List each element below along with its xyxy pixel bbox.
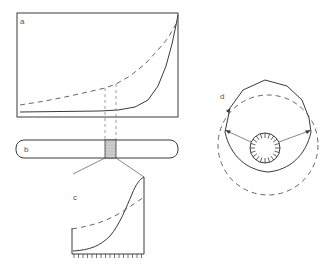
panel-b bbox=[16, 140, 178, 158]
magnify-line-left bbox=[73, 158, 105, 174]
panel-c-label: c bbox=[73, 193, 77, 202]
arrowhead-left-icon bbox=[225, 130, 231, 134]
panel-d bbox=[218, 79, 318, 195]
panel-a-solid-curve bbox=[20, 15, 178, 112]
panel-a bbox=[17, 13, 178, 140]
panel-b-label: b bbox=[24, 145, 29, 154]
panel-d-arrow-right bbox=[279, 131, 309, 142]
panel-c-ticks bbox=[74, 254, 142, 258]
panel-d-dashed-circle bbox=[218, 95, 318, 195]
panel-d-label: d bbox=[220, 92, 224, 101]
panel-b-stippled-segment bbox=[105, 140, 116, 158]
panel-b-bar bbox=[16, 140, 178, 158]
magnify-line-right bbox=[116, 158, 144, 177]
panel-c-dashed-curve bbox=[72, 197, 144, 229]
panel-a-label: a bbox=[20, 17, 25, 26]
panel-d-arrow-left bbox=[227, 131, 251, 142]
panel-c-solid-curve bbox=[73, 177, 144, 251]
arrowhead-right-icon bbox=[305, 130, 311, 134]
figure-canvas: a b c d bbox=[0, 0, 332, 267]
panel-c bbox=[72, 177, 144, 258]
